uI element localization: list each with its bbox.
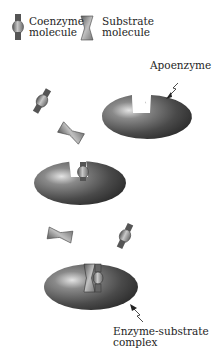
apoenzyme-arrowhead <box>166 92 172 99</box>
legend-substrate-line2: molecule <box>102 27 154 38</box>
apoenzyme-shape <box>101 94 192 139</box>
free-coenzyme-1 <box>31 87 54 115</box>
free-substrate-2 <box>47 227 73 243</box>
legend-coenzyme-line2: molecule <box>29 27 84 38</box>
free-coenzyme-2 <box>115 222 136 250</box>
diagram-canvas <box>0 0 213 353</box>
legend-coenzyme: Coenzyme molecule <box>29 16 84 38</box>
apoenzyme-label: Apoenzyme <box>150 60 211 71</box>
active-site-notch <box>132 92 149 113</box>
legend-substrate: Substrate molecule <box>102 16 154 38</box>
complex-arrow <box>134 309 143 322</box>
free-substrate-1 <box>58 122 85 144</box>
legend-coenzyme-icon <box>13 14 24 40</box>
complex-arrowhead <box>130 304 137 311</box>
complex-label: Enzyme-substrate complex <box>113 326 209 348</box>
complex-label-line2: complex <box>113 337 209 348</box>
